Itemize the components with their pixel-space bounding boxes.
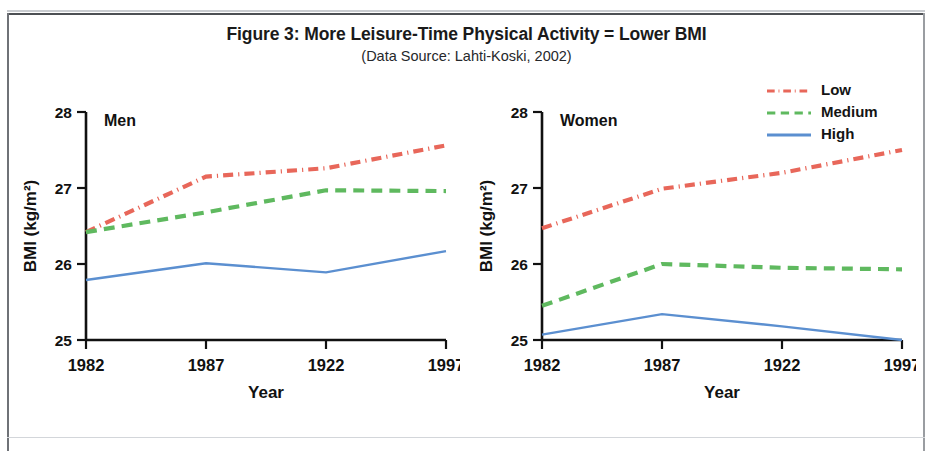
y-tick-label: 27 [55, 180, 72, 197]
panel-title: Women [560, 112, 617, 129]
chart-panel-men: 252627281982198719221997MenBMI (kg/m²)Ye… [14, 96, 460, 412]
x-tick-label: 1982 [68, 356, 105, 374]
page-frame-left [7, 13, 9, 451]
y-tick-label: 26 [511, 256, 529, 273]
x-tick-label: 1922 [308, 356, 345, 374]
y-tick-label: 25 [511, 332, 529, 349]
figure-subtitle: (Data Source: Lahti-Koski, 2002) [0, 48, 933, 65]
page-frame-bottom [7, 437, 925, 438]
x-tick-label: 1987 [188, 356, 225, 374]
series-line-high [86, 251, 446, 280]
figure-title-block: Figure 3: More Leisure-Time Physical Act… [0, 24, 933, 65]
x-tick-label: 1987 [644, 356, 681, 374]
legend-label: Low [821, 82, 851, 97]
page-frame-top-shadow [7, 10, 925, 12]
chart-panel-women: 252627281982198719221997WomenBMI (kg/m²)… [470, 96, 916, 412]
x-tick-label: 1997 [884, 356, 916, 374]
y-tick-label: 28 [55, 104, 73, 121]
page-frame-top [7, 13, 925, 15]
x-axis-title: Year [704, 383, 740, 402]
series-line-high [542, 314, 902, 340]
y-axis-title: BMI (kg/m²) [477, 180, 496, 273]
series-line-medium [542, 264, 902, 306]
y-tick-label: 28 [511, 104, 529, 121]
y-axis-title: BMI (kg/m²) [21, 180, 40, 273]
series-line-low [542, 150, 902, 228]
legend-swatch-icon [766, 83, 812, 95]
y-tick-label: 26 [55, 256, 73, 273]
panel-title: Men [104, 112, 136, 129]
x-tick-label: 1997 [428, 356, 460, 374]
x-tick-label: 1982 [524, 356, 561, 374]
series-line-medium [86, 190, 446, 232]
x-tick-label: 1922 [764, 356, 801, 374]
y-tick-label: 27 [511, 180, 528, 197]
x-axis-title: Year [248, 383, 284, 402]
figure-title: Figure 3: More Leisure-Time Physical Act… [0, 24, 933, 44]
y-tick-label: 25 [55, 332, 73, 349]
figure-root: Figure 3: More Leisure-Time Physical Act… [0, 0, 933, 451]
